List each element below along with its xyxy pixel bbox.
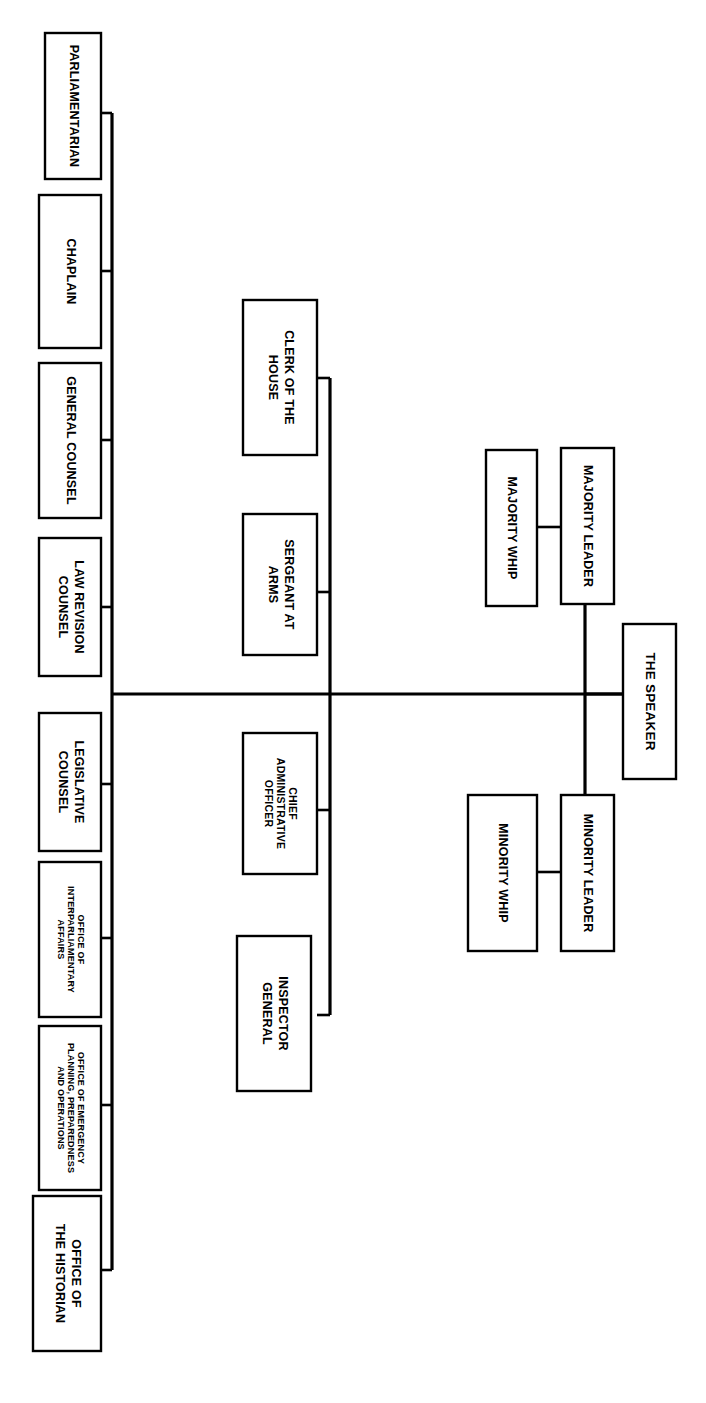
node-legislative-counsel-label-line-2: COUNSEL xyxy=(56,751,70,814)
node-cao[interactable]: CHIEF ADMINISTRATIVE OFFICER xyxy=(243,733,317,874)
node-sergeant[interactable]: SERGEANT AT ARMS xyxy=(243,514,317,655)
node-sergeant-label-line-2: ARMS xyxy=(266,566,280,604)
org-chart-canvas: THE SPEAKER MAJORITY LEADER MAJORITY WHI… xyxy=(0,0,706,1403)
node-inspector-label-line-2: GENERAL xyxy=(260,982,274,1045)
node-speaker[interactable]: THE SPEAKER xyxy=(623,624,676,779)
node-law-revision[interactable]: LAW REVISION COUNSEL xyxy=(39,538,101,676)
node-interparliamentary-label-line-1: OFFICE OF xyxy=(76,915,86,965)
node-majority-whip[interactable]: MAJORITY WHIP xyxy=(486,450,537,606)
node-speaker-label: THE SPEAKER xyxy=(643,652,658,750)
node-interparliamentary-label-line-2: INTERPARLIAMENTARY xyxy=(66,886,76,993)
node-emergency-label-line-1: OFFICE OF EMERGENCY xyxy=(76,1052,86,1164)
node-law-revision-label-line-2: COUNSEL xyxy=(56,576,70,639)
node-cao-label-line-2: ADMINISTRATIVE xyxy=(275,758,287,849)
node-sergeant-label-line-1: SERGEANT AT xyxy=(282,539,296,630)
node-general-counsel-label: GENERAL COUNSEL xyxy=(64,376,78,505)
node-clerk-label-line-2: HOUSE xyxy=(266,355,280,400)
node-inspector[interactable]: INSPECTOR GENERAL xyxy=(237,936,311,1091)
node-interparliamentary-label-line-3: AFFAIRS xyxy=(56,920,66,960)
node-historian[interactable]: OFFICE OF THE HISTORIAN xyxy=(33,1196,101,1351)
node-legislative-counsel-label-line-1: LEGISLATIVE xyxy=(72,740,86,823)
chart-background xyxy=(0,0,706,1403)
node-clerk[interactable]: CLERK OF THE HOUSE xyxy=(243,300,317,455)
node-chaplain-label: CHAPLAIN xyxy=(64,238,78,304)
node-general-counsel[interactable]: GENERAL COUNSEL xyxy=(39,363,101,518)
node-minority-leader-label: MINORITY LEADER xyxy=(581,814,595,933)
node-historian-label-line-1: OFFICE OF xyxy=(69,1239,83,1308)
node-minority-whip-label: MINORITY WHIP xyxy=(496,823,510,923)
node-majority-whip-label: MAJORITY WHIP xyxy=(505,476,519,579)
node-majority-leader-label: MAJORITY LEADER xyxy=(581,465,595,587)
node-minority-leader[interactable]: MINORITY LEADER xyxy=(561,795,614,951)
node-cao-label-line-3: OFFICER xyxy=(263,780,275,828)
node-chaplain[interactable]: CHAPLAIN xyxy=(39,195,101,348)
node-minority-whip[interactable]: MINORITY WHIP xyxy=(468,795,537,951)
node-parliamentarian-label: PARLIAMENTARIAN xyxy=(67,45,81,168)
node-emergency-label-line-3: AND OPERATIONS xyxy=(56,1066,66,1150)
node-inspector-label-line-1: INSPECTOR xyxy=(276,976,290,1051)
node-interparliamentary[interactable]: OFFICE OF INTERPARLIAMENTARY AFFAIRS xyxy=(39,862,101,1017)
org-chart-root: THE SPEAKER MAJORITY LEADER MAJORITY WHI… xyxy=(0,0,706,1403)
node-emergency-label-line-2: PLANNING, PREPAREDNESS xyxy=(66,1043,76,1173)
node-clerk-label-line-1: CLERK OF THE xyxy=(282,330,296,425)
node-legislative-counsel[interactable]: LEGISLATIVE COUNSEL xyxy=(39,713,101,851)
node-emergency[interactable]: OFFICE OF EMERGENCY PLANNING, PREPAREDNE… xyxy=(39,1026,101,1190)
node-law-revision-label-line-1: LAW REVISION xyxy=(72,560,86,653)
node-parliamentarian[interactable]: PARLIAMENTARIAN xyxy=(45,33,101,179)
node-cao-label-line-1: CHIEF xyxy=(287,787,299,820)
node-majority-leader[interactable]: MAJORITY LEADER xyxy=(561,448,614,604)
node-historian-label-line-2: THE HISTORIAN xyxy=(53,1224,67,1324)
